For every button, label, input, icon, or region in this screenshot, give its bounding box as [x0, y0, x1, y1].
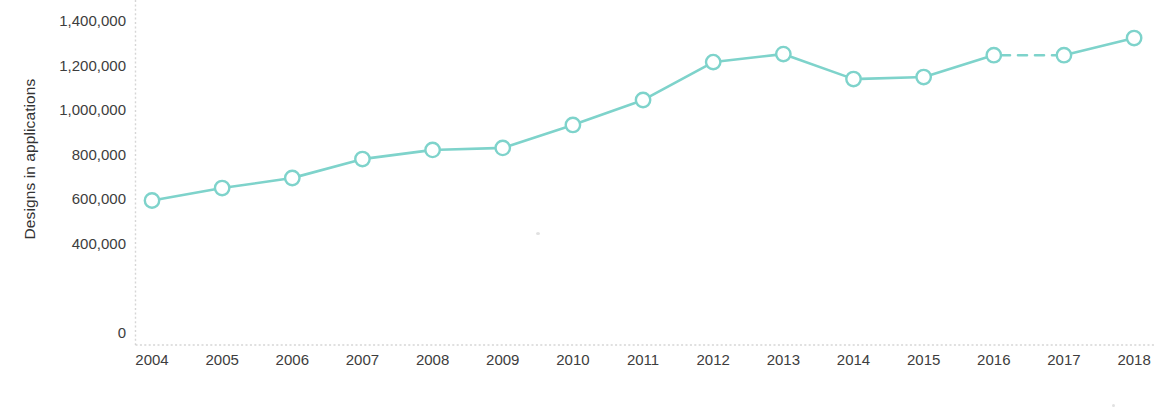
data-point-marker — [566, 118, 580, 132]
data-point-marker — [285, 171, 299, 185]
line-chart: Designs in applications 1,400,0001,200,0… — [0, 0, 1154, 414]
data-point-marker — [636, 93, 650, 107]
scan-speck — [1112, 404, 1115, 407]
data-point-marker — [1127, 31, 1141, 45]
data-point-marker — [706, 55, 720, 69]
data-point-marker — [846, 72, 860, 86]
series-markers — [145, 31, 1142, 208]
data-point-marker — [987, 48, 1001, 62]
plot-area — [0, 0, 1154, 414]
series-line — [159, 40, 1127, 199]
scan-speck — [536, 232, 540, 235]
data-point-marker — [355, 152, 369, 166]
data-point-marker — [145, 193, 159, 207]
data-point-marker — [1057, 48, 1071, 62]
data-point-marker — [916, 70, 930, 84]
data-point-marker — [496, 141, 510, 155]
data-point-marker — [425, 143, 439, 157]
data-point-marker — [215, 181, 229, 195]
data-point-marker — [776, 47, 790, 61]
